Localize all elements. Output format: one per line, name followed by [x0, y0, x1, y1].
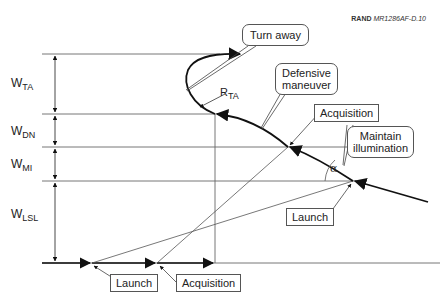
callout-launch-air-text: Launch — [292, 211, 328, 223]
label-w-mi: WMI — [11, 157, 32, 173]
callout-acquisition-ground-text: Acquisition — [182, 277, 235, 289]
callout-launch-ground-text: Launch — [116, 277, 152, 289]
sight-lines — [92, 147, 353, 263]
callout-acquisition-air: Acquisition — [314, 104, 379, 122]
label-alpha: α — [330, 162, 337, 175]
label-r-ta: RTA — [220, 86, 239, 101]
callout-defensive-line2: maneuver — [282, 79, 331, 91]
label-w-lsl: WLSL — [11, 207, 38, 223]
callout-launch-ground: Launch — [110, 274, 158, 292]
callout-launch-air: Launch — [286, 208, 334, 226]
figure-credit: RAND MR1286AF-D.10 — [351, 15, 426, 22]
callout-maintain-line2: illumination — [353, 142, 408, 154]
callout-acquisition-air-text: Acquisition — [320, 107, 373, 119]
credit-doc-id: MR1286AF-D.10 — [373, 15, 426, 22]
label-w-ta: WTA — [11, 76, 33, 92]
callout-defensive-line1: Defensive — [282, 67, 331, 79]
callout-maintain-illumination: Maintain illumination — [347, 126, 414, 158]
callout-turn-away-text: Turn away — [250, 29, 301, 41]
callout-acquisition-ground: Acquisition — [176, 274, 241, 292]
callout-maintain-line1: Maintain — [353, 130, 408, 142]
credit-org: RAND — [351, 15, 371, 22]
label-w-dn: WDN — [11, 124, 35, 140]
callout-turn-away: Turn away — [242, 24, 309, 46]
reference-lines — [42, 54, 440, 263]
callout-defensive-maneuver: Defensive maneuver — [275, 63, 338, 95]
